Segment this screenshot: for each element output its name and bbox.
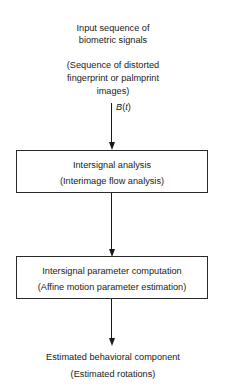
intersignal-analysis-box: Intersignal analysis (Interimage flow an…: [16, 150, 208, 193]
arrow-box1-to-box2: [111, 193, 112, 249]
input-title-line1: Input sequence of: [0, 22, 226, 35]
output-subtitle: (Estimated rotations): [0, 368, 226, 381]
input-subtitle-line1: (Sequence of distorted: [0, 59, 226, 72]
edge-label-b-of-t: B(t): [116, 102, 131, 112]
box1-title: Intersignal analysis: [17, 159, 207, 171]
arrowhead-box2-to-output: [109, 338, 115, 346]
box2-subtitle: (Affine motion parameter estimation): [17, 281, 207, 293]
arrow-box2-to-output: [111, 299, 112, 339]
input-subtitle-line2: fingerprint or palmprint: [0, 72, 226, 85]
box1-subtitle: (Interimage flow analysis): [17, 175, 207, 187]
arrow-input-to-box1: [111, 103, 112, 143]
output-title: Estimated behavioral component: [0, 351, 226, 364]
parameter-computation-box: Intersignal parameter computation (Affin…: [16, 256, 208, 299]
input-title-line2: biometric signals: [0, 34, 226, 47]
box2-title: Intersignal parameter computation: [17, 265, 207, 277]
input-subtitle-line3: images): [0, 85, 226, 98]
arrowhead-input-to-box1: [109, 142, 115, 150]
